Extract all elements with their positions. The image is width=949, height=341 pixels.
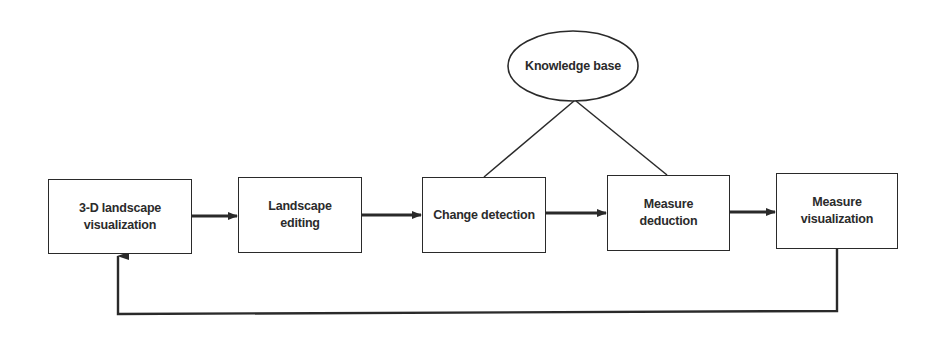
kb-to-measure-deduction-line — [576, 101, 667, 175]
feedback-arrow-n5-to-n1 — [118, 249, 837, 314]
knowledge-base-label: Knowledge base — [508, 31, 638, 101]
kb-to-change-detection-line — [484, 101, 574, 177]
node-label: Change detection — [433, 207, 535, 224]
node-3d-landscape-visualization: 3-D landscape visualization — [48, 179, 192, 254]
node-measure-visualization: Measure visualization — [776, 173, 898, 249]
node-measure-deduction: Measure deduction — [607, 175, 730, 251]
knowledge-base-text: Knowledge base — [525, 59, 621, 73]
node-change-detection: Change detection — [422, 177, 546, 253]
flowchart-canvas — [0, 0, 949, 341]
node-label: Landscape editing — [268, 198, 332, 232]
node-label: Measure visualization — [801, 194, 873, 228]
node-label: 3-D landscape visualization — [79, 200, 161, 234]
node-label: Measure deduction — [640, 196, 698, 230]
node-landscape-editing: Landscape editing — [238, 177, 362, 253]
